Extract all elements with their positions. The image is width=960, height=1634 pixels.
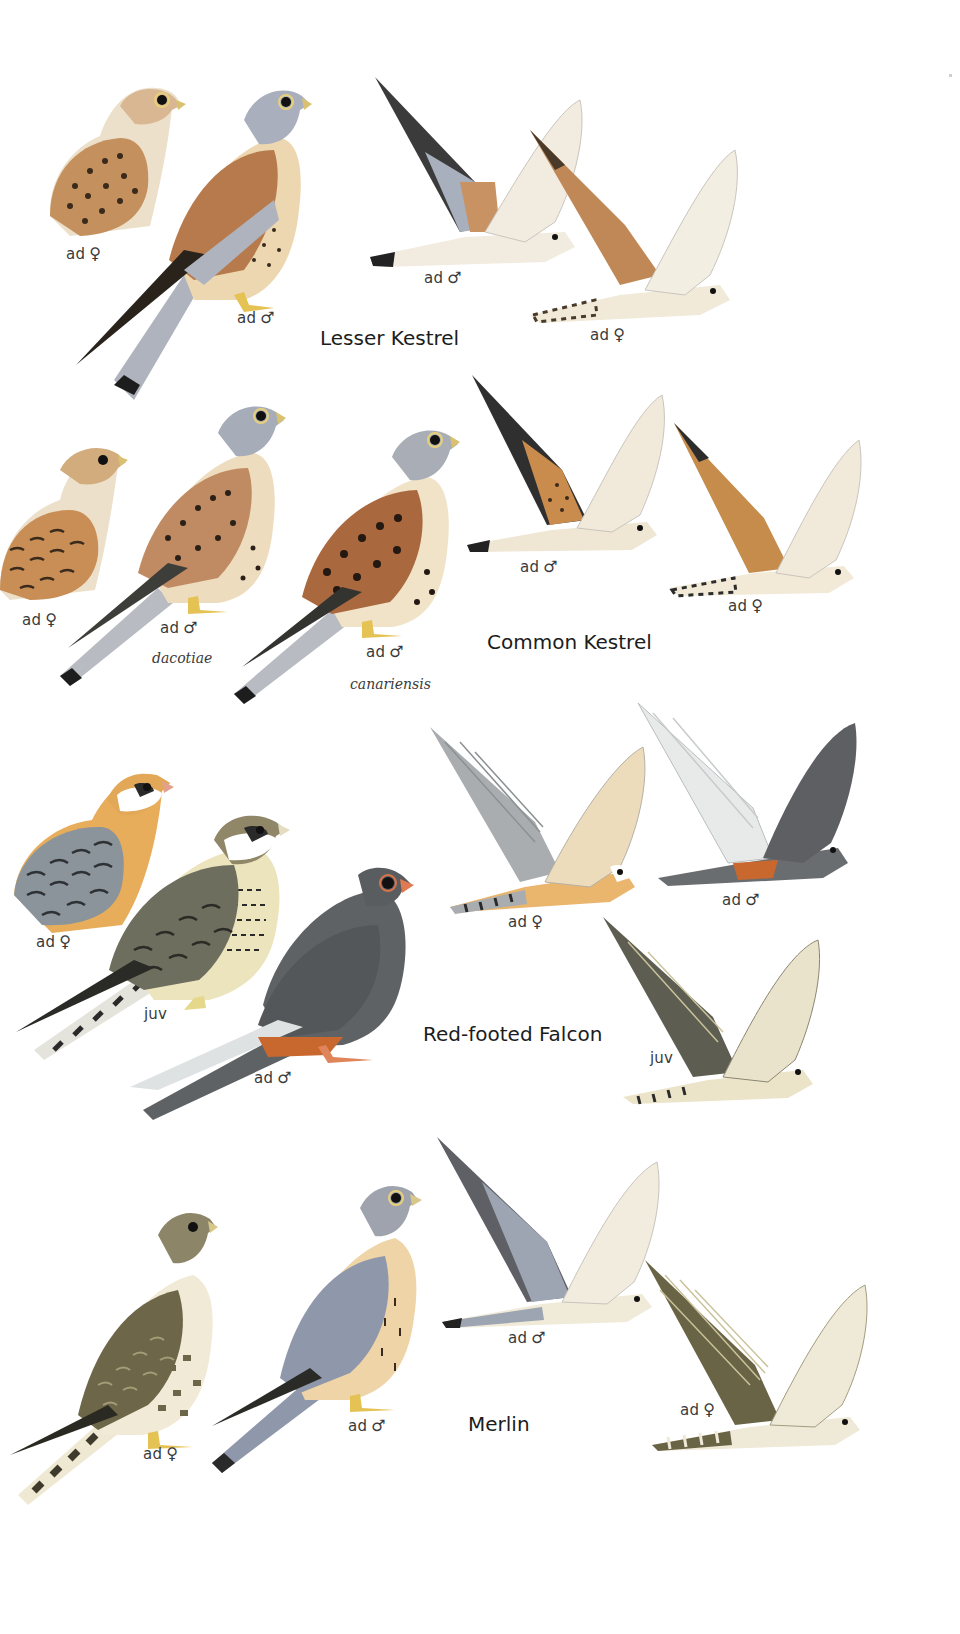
lesser-kestrel-ad-female-flight bbox=[525, 125, 745, 325]
species-name-merlin: Merlin bbox=[468, 1412, 530, 1436]
figure-label: juv bbox=[650, 1048, 677, 1067]
page-speck bbox=[949, 74, 952, 77]
species-name-common-kestrel: Common Kestrel bbox=[487, 630, 652, 654]
common-kestrel-ad-male-flight bbox=[462, 370, 672, 555]
figure-label: ad♂ bbox=[348, 1416, 386, 1435]
species-name-lesser-kestrel: Lesser Kestrel bbox=[320, 326, 459, 350]
subspecies-label: dacotiae bbox=[152, 650, 212, 666]
merlin-ad-male-perched bbox=[210, 1178, 425, 1478]
figure-label: ad♀ bbox=[22, 610, 57, 629]
figure-label: ad♀ bbox=[728, 596, 763, 615]
common-kestrel-ad-female-flight bbox=[664, 418, 869, 598]
figure-label: ad♂ bbox=[254, 1068, 292, 1087]
figure-label: ad♂ bbox=[424, 268, 462, 287]
field-guide-plate: ad♀ ad♂ ad♂ bbox=[0, 0, 960, 1634]
figure-label: ad♂ bbox=[722, 890, 760, 909]
red-footed-falcon-ad-female-flight bbox=[425, 722, 655, 912]
merlin-ad-male-flight bbox=[432, 1132, 667, 1332]
merlin-ad-female-perched bbox=[8, 1205, 218, 1510]
red-footed-falcon-ad-male-flight bbox=[633, 698, 863, 888]
figure-label: ad♀ bbox=[680, 1400, 715, 1419]
subspecies-label: canariensis bbox=[350, 676, 431, 692]
lesser-kestrel-ad-male-perched bbox=[74, 80, 314, 410]
figure-label: ad♂ bbox=[160, 618, 198, 637]
figure-label: ad♀ bbox=[590, 325, 625, 344]
figure-label: ad♂ bbox=[520, 557, 558, 576]
figure-label: ad♀ bbox=[143, 1444, 178, 1463]
figure-label: ad♀ bbox=[508, 912, 543, 931]
figure-label: ad♂ bbox=[237, 308, 275, 327]
species-name-red-footed-falcon: Red-footed Falcon bbox=[423, 1022, 602, 1046]
figure-label: ad♂ bbox=[508, 1328, 546, 1347]
common-kestrel-canariensis-ad-male-perched bbox=[232, 422, 462, 712]
red-footed-falcon-juv-flight bbox=[598, 912, 828, 1107]
merlin-ad-female-flight bbox=[640, 1255, 875, 1455]
figure-label: ad♂ bbox=[366, 642, 404, 661]
